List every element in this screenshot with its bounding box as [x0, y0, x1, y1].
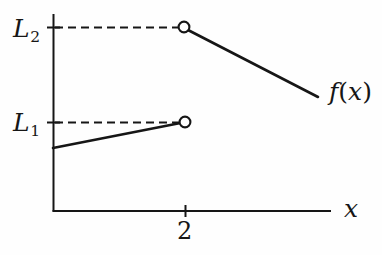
- dashed-guides-group: [55, 28, 180, 123]
- y-axis-label-L1: L1: [13, 110, 39, 135]
- x-axis-label: x: [344, 196, 358, 221]
- function-label-open-paren: (: [338, 77, 348, 106]
- y-axis-label-L2-letter: L: [13, 14, 30, 43]
- y-axis-label-L1-subscript: 1: [30, 122, 40, 140]
- function-curve-group: [53, 30, 318, 148]
- function-label-fx: f(x): [329, 79, 372, 104]
- function-label-name: f: [329, 77, 338, 106]
- x-tick-label-2: 2: [177, 219, 192, 243]
- lower-open-circle: [180, 117, 191, 128]
- function-label-arg: x: [348, 77, 362, 106]
- y-axis-label-L2: L2: [13, 16, 39, 41]
- y-axis-label-L1-letter: L: [13, 108, 30, 137]
- discontinuity-markers-group: [179, 22, 191, 128]
- function-label-close-paren: ): [362, 77, 372, 106]
- function-branch-right: [188, 30, 318, 97]
- upper-open-circle: [179, 22, 190, 33]
- function-branch-left: [53, 123, 181, 148]
- y-axis-label-L2-subscript: 2: [30, 28, 40, 46]
- figure-canvas: L2 L1 f(x) x 2: [0, 0, 382, 255]
- axes-group: [53, 14, 332, 212]
